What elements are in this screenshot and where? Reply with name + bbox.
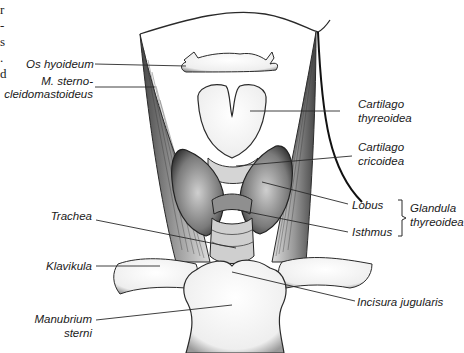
label-glandula-1: Glandula [410, 202, 456, 215]
label-incisura-jugularis: Incisura jugularis [357, 296, 443, 309]
label-m-sterno-line2: cleidomastoideus [0, 88, 93, 101]
label-m-sterno-line1: M. sterno- [0, 75, 93, 88]
label-isthmus: Isthmus [352, 226, 392, 239]
label-klavikula: Klavikula [20, 260, 92, 273]
thyroid-cartilage [198, 85, 266, 158]
jaw-outline [140, 12, 330, 34]
right-clavicle [279, 258, 372, 288]
label-lobus: Lobus [352, 199, 383, 212]
manubrium-sterni [184, 260, 286, 353]
label-cartilago-thyreoidea-2: thyreoidea [358, 112, 412, 125]
neck-contour-right [318, 32, 362, 202]
label-glandula-2: thyreoidea [410, 216, 464, 229]
hyoid-bone [182, 52, 278, 72]
label-cartilago-thyreoidea-1: Cartilago [358, 98, 404, 111]
glandula-bracket [398, 200, 406, 236]
label-cartilago-cricoidea-2: cricoidea [358, 155, 404, 168]
label-os-hyoideum: Os hyoideum [26, 58, 92, 71]
trachea [210, 218, 254, 264]
label-manubrium-1: Manubrium [20, 313, 92, 326]
label-manubrium-2: sterni [20, 327, 92, 340]
label-trachea: Trachea [20, 210, 92, 223]
label-cartilago-cricoidea-1: Cartilago [358, 141, 404, 154]
thyroid-isthmus [212, 194, 252, 214]
